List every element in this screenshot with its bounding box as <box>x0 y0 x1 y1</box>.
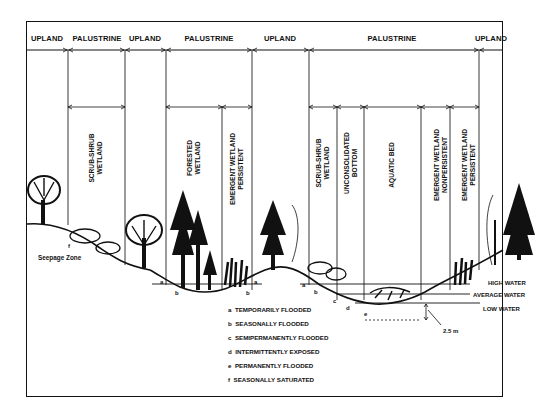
legend-item-e: e PERMANENTLY FLOODED <box>228 362 313 369</box>
legend-key: a <box>228 306 231 313</box>
class-label-emergent-persistent-1: EMERGENT WETLAND PERSISTENT <box>229 129 245 209</box>
legend-text: SEASONALLY FLOODED <box>235 320 309 327</box>
high-water-label: HIGH WATER <box>488 280 526 286</box>
class-line1: FORESTED <box>186 118 194 198</box>
legend-text: INTERMITTENTLY EXPOSED <box>235 348 319 355</box>
marker-b-mid: b <box>246 290 250 296</box>
class-line1: SCRUB-SHRUB <box>88 118 96 198</box>
legend-key: c <box>228 334 231 341</box>
legend-key: b <box>228 320 232 327</box>
class-label-scrub-shrub-2: SCRUB-SHRUB WETLAND <box>315 123 331 203</box>
legend-key: e <box>228 362 231 369</box>
legend-item-b: b SEASONALLY FLOODED <box>228 320 309 327</box>
marker-b-right: b <box>314 289 318 295</box>
legend-item-d: d INTERMITTENTLY EXPOSED <box>228 348 319 355</box>
header-zone-upland-2: UPLAND <box>129 34 161 43</box>
legend-key: f <box>228 376 230 383</box>
marker-c: c <box>333 298 336 304</box>
class-line2: WETLAND <box>96 118 104 198</box>
class-line2: PERSISTENT <box>237 129 245 209</box>
class-line1: AQUATIC BED <box>388 125 396 205</box>
marker-a-right: a <box>302 282 305 288</box>
legend-item-f: f SEASONALLY SATURATED <box>228 376 314 383</box>
class-line2: NONPERSISTENT <box>441 120 449 210</box>
depth-label: 2.5 m <box>443 328 458 334</box>
class-label-aquatic-bed: AQUATIC BED <box>388 125 396 205</box>
header-zone-palustrine-1: PALUSTRINE <box>73 34 122 43</box>
header-zone-palustrine-3: PALUSTRINE <box>368 34 417 43</box>
class-label-forested: FORESTED WETLAND <box>186 118 202 198</box>
class-line2: WETLAND <box>194 118 202 198</box>
legend-text: PERMANENTLY FLOODED <box>235 362 313 369</box>
f-marker: f <box>68 243 70 249</box>
class-line1: EMERGENT WETLAND <box>461 120 469 210</box>
class-label-emergent-nonpersistent: EMERGENT WETLAND NONPERSISTENT <box>433 120 449 210</box>
marker-a-left: a <box>160 279 163 285</box>
marker-b-left: b <box>175 290 179 296</box>
class-label-unconsolidated-bottom: UNCONSOLIDATED BOTTOM <box>343 123 359 203</box>
marker-e: e <box>364 311 367 317</box>
low-water-label: LOW WATER <box>483 306 520 312</box>
seepage-zone-label: Seepage Zone <box>38 254 81 261</box>
class-line1: SCRUB-SHRUB <box>315 123 323 203</box>
legend-text: SEASONALLY SATURATED <box>234 376 315 383</box>
class-label-emergent-persistent-2: EMERGENT WETLAND PERSISTENT <box>461 120 477 210</box>
average-water-label: AVERAGE WATER <box>473 292 525 298</box>
class-line1: EMERGENT WETLAND <box>229 129 237 209</box>
header-zone-upland-3: UPLAND <box>264 34 296 43</box>
class-line1: EMERGENT WETLAND <box>433 120 441 210</box>
legend-item-a: a TEMPORARILY FLOODED <box>228 306 311 313</box>
legend-text: SEMIPERMANENTLY FLOODED <box>235 334 329 341</box>
header-zone-upland-1: UPLAND <box>31 34 63 43</box>
class-label-scrub-shrub-1: SCRUB-SHRUB WETLAND <box>88 118 104 198</box>
marker-d: d <box>346 305 350 311</box>
class-line2: BOTTOM <box>351 123 359 203</box>
header-zone-palustrine-2: PALUSTRINE <box>185 34 234 43</box>
legend-key: d <box>228 348 232 355</box>
class-line1: UNCONSOLIDATED <box>343 123 351 203</box>
marker-a-mid: a <box>254 279 257 285</box>
header-zone-upland-4: UPLAND <box>475 34 507 43</box>
class-line2: PERSISTENT <box>469 120 477 210</box>
legend-text: TEMPORARILY FLOODED <box>235 306 311 313</box>
legend-item-c: c SEMIPERMANENTLY FLOODED <box>228 334 328 341</box>
class-line2: WETLAND <box>323 123 331 203</box>
